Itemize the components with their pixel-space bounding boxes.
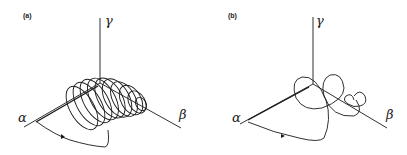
- panel-b: (b) γ α β: [204, 0, 407, 155]
- helix-coils: [60, 73, 150, 135]
- panel-a: (a) γ α β: [0, 0, 203, 155]
- beta-label: β: [386, 108, 394, 121]
- gamma-label: γ: [105, 14, 113, 27]
- loop-trajectory-plot-b: [204, 0, 407, 155]
- incoming-trajectory: [248, 122, 324, 141]
- beta-label: β: [179, 108, 187, 121]
- trajectory-loops: [294, 75, 366, 138]
- alpha-label: α: [18, 111, 27, 124]
- panel-label-a: (a): [23, 12, 32, 19]
- beta-axis: [100, 83, 181, 128]
- gamma-label: γ: [316, 14, 324, 27]
- panel-label-b: (b): [228, 12, 237, 19]
- alpha-axis: [24, 83, 100, 127]
- beta-axis: [313, 84, 387, 128]
- alpha-label: α: [232, 111, 241, 124]
- helix-trajectory-plot-a: [0, 0, 203, 155]
